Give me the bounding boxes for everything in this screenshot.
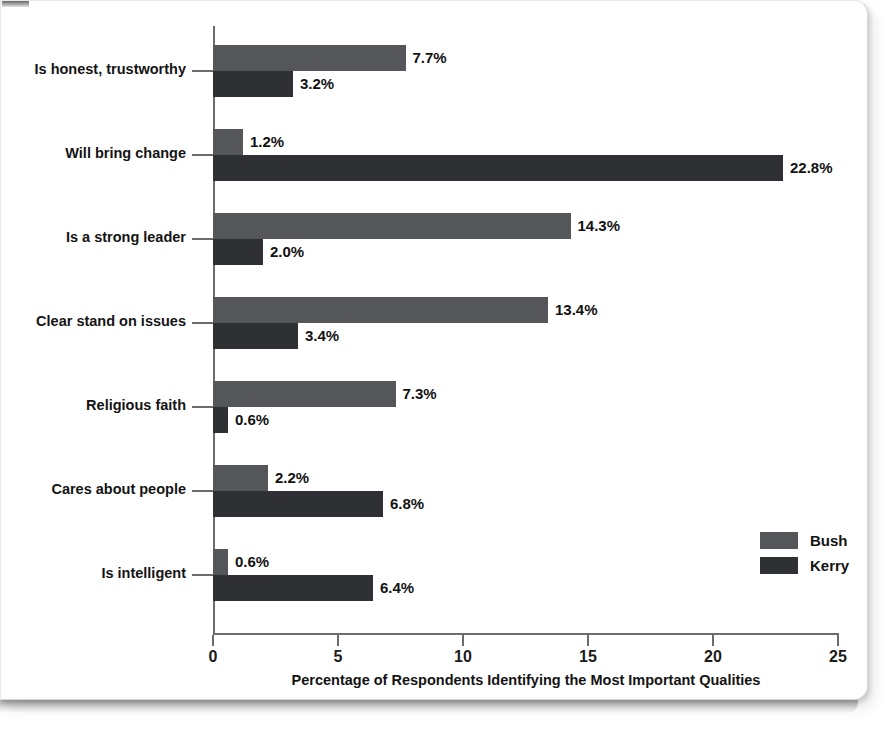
x-axis-tick-label: 5 <box>308 648 368 666</box>
y-axis-tick <box>192 238 213 240</box>
y-axis-tick <box>192 154 213 156</box>
legend-swatch-bush <box>760 532 798 549</box>
category-label: Clear stand on issues <box>0 313 186 329</box>
bar-value-label: 1.2% <box>250 129 284 155</box>
page-drop-shadow <box>0 700 858 713</box>
bar-kerry <box>213 491 383 517</box>
legend-item-bush[interactable]: Bush <box>760 528 870 553</box>
y-axis-tick <box>192 490 213 492</box>
bar-kerry <box>213 239 263 265</box>
bar-kerry <box>213 323 298 349</box>
bar-value-label: 14.3% <box>578 213 621 239</box>
y-axis-tick <box>192 574 213 576</box>
x-axis-tick-label: 0 <box>183 648 243 666</box>
bar-value-label: 13.4% <box>555 297 598 323</box>
bar-bush <box>213 465 268 491</box>
x-axis-tick <box>462 635 464 646</box>
x-axis-tick <box>587 635 589 646</box>
bar-value-label: 22.8% <box>790 155 833 181</box>
category-label: Is intelligent <box>0 565 186 581</box>
x-axis-tick-label: 25 <box>808 648 868 666</box>
bar-bush <box>213 213 571 239</box>
bar-bush <box>213 129 243 155</box>
bar-value-label: 6.4% <box>380 575 414 601</box>
plot-area: 0510152025Is honest, trustworthy7.7%3.2%… <box>0 0 868 700</box>
bar-value-label: 2.2% <box>275 465 309 491</box>
y-axis-tick <box>192 406 213 408</box>
bar-value-label: 0.6% <box>235 407 269 433</box>
category-label: Cares about people <box>0 481 186 497</box>
legend-label-bush: Bush <box>810 528 848 553</box>
x-axis-tick <box>212 635 214 646</box>
bar-bush <box>213 381 396 407</box>
x-axis-title: Percentage of Respondents Identifying th… <box>213 672 839 688</box>
x-axis-tick-label: 20 <box>683 648 743 666</box>
x-axis-tick <box>712 635 714 646</box>
bar-kerry <box>213 407 228 433</box>
category-label: Religious faith <box>0 397 186 413</box>
x-axis-tick-label: 15 <box>558 648 618 666</box>
bar-value-label: 2.0% <box>270 239 304 265</box>
bar-value-label: 7.7% <box>413 45 447 71</box>
bar-value-label: 3.2% <box>300 71 334 97</box>
legend-swatch-kerry <box>760 557 798 574</box>
bar-bush <box>213 297 548 323</box>
grouped-bar-chart: 0510152025Is honest, trustworthy7.7%3.2%… <box>0 0 868 700</box>
y-axis-tick <box>192 70 213 72</box>
legend-label-kerry: Kerry <box>810 553 849 578</box>
bar-bush <box>213 549 228 575</box>
bar-value-label: 0.6% <box>235 549 269 575</box>
category-label: Is honest, trustworthy <box>0 61 186 77</box>
category-label: Will bring change <box>0 145 186 161</box>
x-axis-tick <box>837 635 839 646</box>
x-axis-tick-label: 10 <box>433 648 493 666</box>
bar-kerry <box>213 71 293 97</box>
category-label: Is a strong leader <box>0 229 186 245</box>
x-axis-line <box>213 633 839 635</box>
legend-item-kerry[interactable]: Kerry <box>760 553 870 578</box>
bar-value-label: 7.3% <box>403 381 437 407</box>
bar-value-label: 3.4% <box>305 323 339 349</box>
bar-bush <box>213 45 406 71</box>
bar-value-label: 6.8% <box>390 491 424 517</box>
chart-legend: Bush Kerry <box>760 528 870 578</box>
bar-kerry <box>213 575 373 601</box>
x-axis-tick <box>337 635 339 646</box>
y-axis-tick <box>192 322 213 324</box>
bar-kerry <box>213 155 783 181</box>
